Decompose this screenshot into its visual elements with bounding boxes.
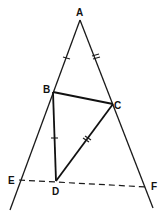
segment-BD: [53, 92, 56, 181]
geometry-diagram: A B C D E F: [0, 0, 165, 215]
segment-BC: [53, 92, 113, 104]
point-label-B: B: [43, 84, 50, 95]
line-A-F: [80, 20, 153, 208]
point-label-A: A: [76, 7, 83, 18]
point-label-F: F: [151, 181, 157, 192]
segment-CD: [56, 104, 113, 181]
point-label-C: C: [114, 100, 121, 111]
point-label-D: D: [52, 186, 59, 197]
segment-EF-dashed: [19, 180, 147, 187]
line-A-E: [10, 20, 80, 210]
point-label-E: E: [8, 175, 15, 186]
